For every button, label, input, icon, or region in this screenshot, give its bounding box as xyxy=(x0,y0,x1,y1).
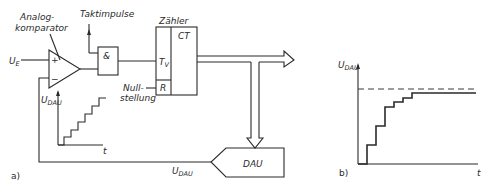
panel-b-label: b) xyxy=(339,168,348,178)
panel-b-ylabel: UDAU xyxy=(338,60,359,72)
panel-b-staircase xyxy=(358,93,476,164)
reset-label-line2: stellung xyxy=(120,93,156,103)
clock-label: Taktimpulse xyxy=(80,9,135,19)
reset-label-line1: Null- xyxy=(123,83,144,93)
counter-tv-label: TV xyxy=(159,57,170,69)
and-gate-label: & xyxy=(103,51,110,61)
counter-title: Zähler xyxy=(158,16,189,26)
comparator-label-line1: Analog- xyxy=(19,12,54,22)
inset-ylabel: UDAU xyxy=(41,95,62,107)
dac-label: DAU xyxy=(243,159,263,169)
counter-ct-label: CT xyxy=(178,31,191,41)
clock-arrow-icon xyxy=(87,29,91,35)
inset-y-arrow-icon xyxy=(56,90,60,96)
panel-b-xlabel: t xyxy=(477,168,481,178)
inset-staircase xyxy=(58,98,106,145)
comparator-label-line2: komparator xyxy=(15,23,69,33)
data-bus-arrow xyxy=(197,51,294,67)
feedback-label: UDAU xyxy=(172,166,193,178)
minus-sign: − xyxy=(51,74,59,84)
input-label: UE xyxy=(9,56,21,68)
plus-sign: + xyxy=(51,55,59,65)
adc-diagram: Analog- komparator UE + − Taktimpulse & … xyxy=(0,0,497,189)
inset-xlabel: t xyxy=(103,146,107,156)
counter-r-label: R xyxy=(160,83,166,93)
panel-a-label: a) xyxy=(11,171,20,181)
dac-bus-arrow xyxy=(247,62,263,148)
